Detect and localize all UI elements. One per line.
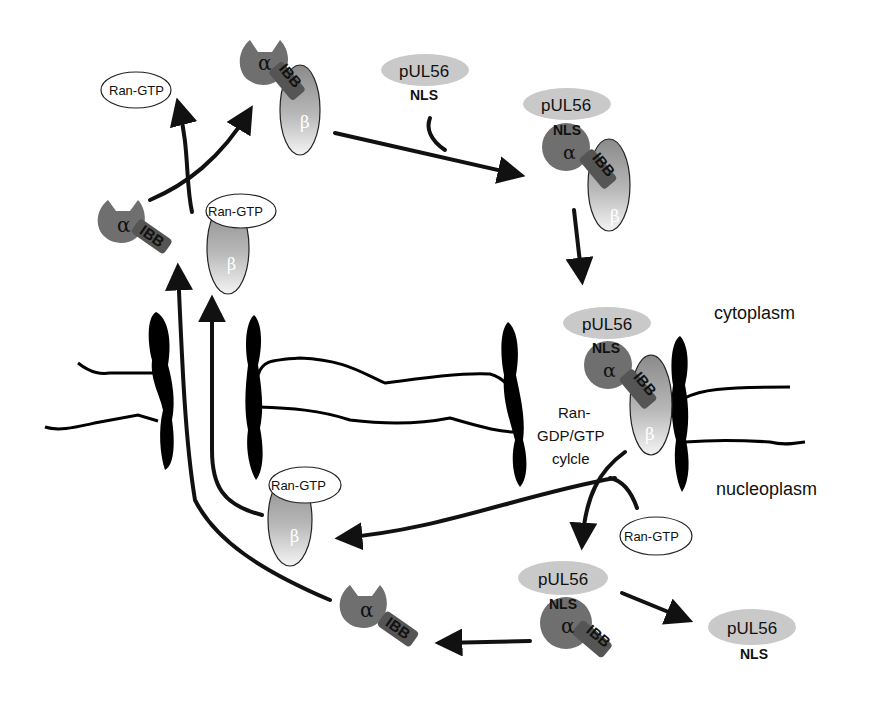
nuclear-envelope bbox=[45, 312, 805, 492]
ran-cycle-label: Ran- GDP/GTP cylcle bbox=[537, 404, 605, 467]
nls-label: NLS bbox=[549, 596, 577, 612]
cargo-binding-arrow bbox=[335, 133, 520, 175]
cargo-release-arrow bbox=[622, 593, 688, 620]
nls-label: NLS bbox=[410, 87, 438, 103]
pul56-label: pUL56 bbox=[582, 315, 632, 334]
pul56-label: pUL56 bbox=[541, 96, 591, 115]
ran-cycle-line1: Ran- bbox=[558, 404, 591, 421]
inner-membrane-right bbox=[685, 441, 805, 445]
ran-gtp-free-nucleus: Ran-GTP bbox=[620, 517, 692, 555]
ran-cycle-line3: cylcle bbox=[552, 450, 590, 467]
inner-membrane-middle bbox=[258, 407, 520, 432]
beta-release-arrow bbox=[340, 478, 615, 538]
nuclear-pore-2 bbox=[245, 315, 262, 480]
outer-membrane-right bbox=[685, 387, 790, 398]
ran-gtp-release-arrow bbox=[178, 103, 192, 212]
alpha-label: α bbox=[563, 141, 576, 163]
beta-label: β bbox=[227, 255, 236, 274]
beta-label: β bbox=[300, 112, 310, 132]
alpha-ibb-nucleus: α IBB bbox=[340, 585, 420, 648]
alpha-recycle-arrow bbox=[150, 110, 250, 200]
import-arrow bbox=[574, 210, 582, 280]
alpha-label: α bbox=[360, 598, 374, 622]
pul56-alpha-nucleus: pUL56 NLS α IBB bbox=[518, 561, 614, 659]
nls-label: NLS bbox=[553, 122, 581, 138]
alpha-label: α bbox=[561, 614, 575, 638]
alpha-label: α bbox=[603, 359, 616, 381]
pul56-free-nucleus: pUL56 NLS bbox=[708, 609, 796, 662]
pul56-label: pUL56 bbox=[727, 619, 777, 638]
inner-membrane-left bbox=[45, 415, 158, 429]
beta-label: β bbox=[610, 206, 620, 226]
alpha-label: α bbox=[258, 51, 272, 75]
nuclear-pore-3 bbox=[501, 322, 526, 487]
beta-ran-gtp-left: Ran-GTP β bbox=[206, 194, 276, 294]
beta-label: β bbox=[290, 527, 299, 546]
cytoplasm-label: cytoplasm bbox=[714, 303, 795, 323]
pul56-label: pUL56 bbox=[538, 570, 588, 589]
ran-gtp-label: Ran-GTP bbox=[271, 478, 326, 493]
ran-cycle-line2: GDP/GTP bbox=[537, 427, 605, 444]
beta-label: β bbox=[645, 424, 655, 444]
nls-label: NLS bbox=[740, 646, 768, 662]
outer-membrane-left bbox=[78, 363, 154, 373]
nls-binding-hook bbox=[429, 118, 445, 150]
nuclear-pore-1 bbox=[149, 312, 174, 470]
ran-gtp-binding-line bbox=[610, 478, 637, 508]
alpha-release-arrow bbox=[440, 641, 530, 643]
ran-gtp-label: Ran-GTP bbox=[208, 204, 263, 219]
importin-alpha-beta-top: α IBB β bbox=[240, 40, 320, 155]
nuclear-import-cycle-diagram: α IBB β Ran-GTP pUL56 NLS pUL56 NLS α IB… bbox=[0, 0, 872, 703]
outer-membrane-middle bbox=[258, 358, 518, 400]
ran-gtp-free-top: Ran-GTP bbox=[101, 72, 171, 108]
nucleoplasm-label: nucleoplasm bbox=[716, 479, 817, 499]
alpha-ibb-left: α IBB bbox=[98, 200, 173, 255]
nls-label: NLS bbox=[592, 340, 620, 356]
pul56-free-top: pUL56 NLS bbox=[381, 54, 469, 103]
beta-ran-gtp-nucleus: Ran-GTP β bbox=[268, 467, 341, 566]
pul56-alpha-beta-cyto: pUL56 NLS α IBB β bbox=[523, 88, 630, 231]
ran-gtp-label: Ran-GTP bbox=[109, 83, 164, 98]
alpha-label: α bbox=[117, 213, 131, 237]
ran-gtp-label: Ran-GTP bbox=[624, 529, 679, 544]
nuclear-pore-4 bbox=[671, 336, 688, 492]
pul56-label: pUL56 bbox=[399, 62, 449, 81]
